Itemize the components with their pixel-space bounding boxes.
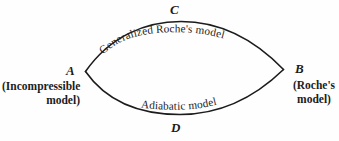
vertex-label-d: D [171,121,180,134]
left-annotation: (Incompressible model) [2,79,80,108]
left-annotation-line1: (Incompressible [2,79,80,93]
right-annotation-line2: model) [288,92,339,106]
roche-model-diagram: Generalized Roche's model Adiabatic mode… [0,0,339,141]
vertex-label-a: A [66,64,75,77]
upper-arc [86,22,284,72]
lens-shape [0,0,339,141]
right-annotation: (Roche's model) [288,78,339,107]
right-annotation-line1: (Roche's [288,78,339,92]
vertex-label-c: C [170,3,179,16]
lower-arc [86,70,284,115]
vertex-label-b: B [295,62,304,75]
left-annotation-line2: model) [2,93,80,107]
